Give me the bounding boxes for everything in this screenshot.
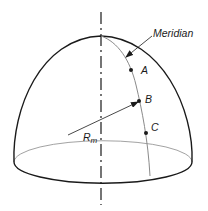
dome-diagram: Meridian A B C Rm [0, 0, 208, 211]
point-c-marker [144, 131, 148, 135]
base-ellipse-back [14, 141, 192, 162]
point-b-label: B [145, 93, 152, 105]
meridian-line [101, 36, 150, 176]
meridian-label: Meridian [153, 27, 193, 39]
dome-outline [14, 36, 192, 162]
radius-label-subscript: m [91, 136, 98, 145]
point-b-marker [137, 99, 141, 103]
radius-label: Rm [83, 131, 98, 145]
point-a-marker [129, 68, 133, 72]
point-c-label: C [151, 121, 159, 133]
point-a-label: A [140, 64, 148, 76]
radius-arrow [68, 102, 138, 135]
base-ellipse-front [14, 162, 192, 183]
